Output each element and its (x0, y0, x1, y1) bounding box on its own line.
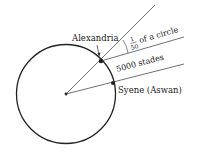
syene-point (111, 81, 115, 85)
center-point (65, 93, 68, 96)
fraction-numerator: 1 (129, 35, 135, 43)
alexandria-point (99, 59, 104, 64)
angle-arc (123, 40, 128, 53)
syene-label: Syene (Aswan) (118, 85, 182, 95)
eratosthenes-diagram: Alexandria 1 50 of a circle 5000 stades … (0, 0, 201, 157)
alexandria-label: Alexandria (71, 33, 119, 43)
fraction-suffix-label: of a circle (138, 25, 179, 45)
fraction-denominator: 50 (130, 42, 139, 51)
